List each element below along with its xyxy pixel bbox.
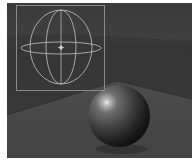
- scene-canvas: [7, 3, 192, 158]
- shaded-sphere[interactable]: [88, 85, 150, 147]
- render-viewport[interactable]: [7, 3, 192, 158]
